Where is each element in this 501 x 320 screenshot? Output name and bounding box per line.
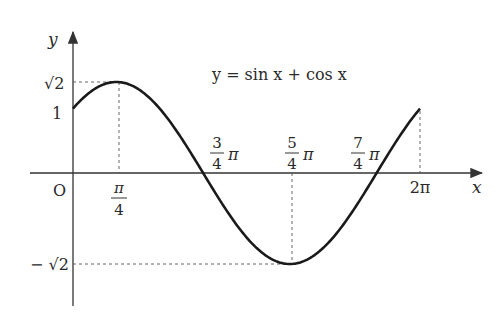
svg-text:π: π bbox=[113, 179, 125, 197]
svg-text:π: π bbox=[368, 145, 380, 164]
svg-text:4: 4 bbox=[353, 155, 363, 173]
x-tick-pi-over-4: π 4 bbox=[111, 179, 127, 219]
svg-text:5: 5 bbox=[287, 134, 297, 152]
y-tick-one: 1 bbox=[52, 104, 62, 123]
svg-text:π: π bbox=[302, 145, 314, 164]
svg-text:4: 4 bbox=[114, 201, 124, 219]
x-tick-3pi-over-4: 3 4 π bbox=[210, 134, 239, 173]
svg-text:π: π bbox=[227, 145, 239, 164]
svg-text:7: 7 bbox=[353, 134, 363, 152]
y-axis-label: y bbox=[47, 29, 58, 49]
svg-text:4: 4 bbox=[212, 155, 222, 173]
x-tick-5pi-over-4: 5 4 π bbox=[285, 134, 314, 173]
origin-label: O bbox=[53, 181, 66, 200]
equation-label: y = sin x + cos x bbox=[211, 65, 347, 84]
svg-text:4: 4 bbox=[287, 155, 297, 173]
y-tick-sqrt2: √2 bbox=[44, 74, 64, 93]
svg-text:3: 3 bbox=[212, 134, 222, 152]
x-tick-2pi: 2π bbox=[410, 178, 431, 197]
sine-cosine-graph: y x O y = sin x + cos x √2 1 − √2 π 4 3 … bbox=[0, 0, 501, 320]
y-tick-neg-sqrt2: − √2 bbox=[30, 255, 69, 274]
x-tick-7pi-over-4: 7 4 π bbox=[351, 134, 380, 173]
x-axis-label: x bbox=[472, 177, 482, 197]
